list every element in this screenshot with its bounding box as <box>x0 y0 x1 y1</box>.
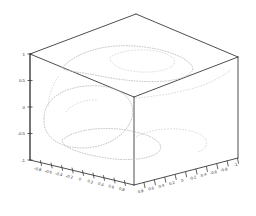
x-tick-label-m0p6: -0.6 <box>44 168 53 175</box>
y-tick-0p6 <box>154 180 155 186</box>
y-tick-0p8 <box>144 182 145 188</box>
contour-bottom-face-ellipse <box>62 128 161 159</box>
z-tick-label-m1: -1 <box>21 158 25 163</box>
y-tick-label-m0p6: -0.6 <box>209 169 218 176</box>
y-tick-0p2 <box>175 174 176 180</box>
y-tick-label-0p6: 0.6 <box>148 185 155 191</box>
y-tick-m0p2 <box>196 169 197 175</box>
y-tick-label-0: 0 <box>180 177 184 183</box>
contour-group-bottom-face <box>62 128 161 159</box>
x-tick-label-0p2: 0.2 <box>87 178 94 184</box>
y-tick-label-m0p8: -0.8 <box>220 166 229 173</box>
x-tick-label-m0p2: -0.2 <box>65 173 74 180</box>
y-tick-label-m1: -1 <box>233 161 238 167</box>
x-tick-label-0: 0 <box>78 176 82 182</box>
box-edge-top-front-right <box>134 57 238 97</box>
y-tick-label-0p2: 0.2 <box>168 180 175 186</box>
contour-group-top-face <box>62 46 193 82</box>
contour-top-face-inner <box>110 50 175 72</box>
y-tick-m0p8 <box>227 161 228 167</box>
contour-right-face-lower <box>136 129 206 140</box>
y-axis: 0.8 0.6 0.4 0.2 0 -0.2 -0.4 -0.6 -0.8 -1 <box>134 158 239 194</box>
plot-canvas: 1 0.5 0 -0.5 -1 -0.8 -0.6 -0.4 -0. <box>0 0 256 216</box>
y-tick-m1 <box>237 158 238 164</box>
x-tick-label-0p6: 0.6 <box>108 183 115 189</box>
x-axis-ticks <box>40 160 125 186</box>
x-tick-label-m0p4: -0.4 <box>55 171 64 178</box>
x-tick-label-0p4: 0.4 <box>97 181 104 187</box>
box-edge-top-back-right <box>136 14 238 57</box>
contour-group-right-face <box>136 70 230 152</box>
z-tick-label-0: 0 <box>23 105 26 110</box>
y-tick-0p4 <box>165 177 166 183</box>
y-tick-label-m0p2: -0.2 <box>189 174 198 181</box>
x-tick-label-m0p8: -0.8 <box>34 166 43 173</box>
contour-right-face-edge <box>198 140 207 152</box>
y-tick-0 <box>186 172 187 178</box>
box-edge-top-back-left <box>30 14 136 54</box>
y-tick-label-m0p4: -0.4 <box>199 171 208 178</box>
y-tick-m0p6 <box>217 164 218 170</box>
x-axis: -0.8 -0.6 -0.4 -0.2 0 0.2 0.4 0.6 0.8 <box>30 160 134 192</box>
z-axis: 1 0.5 0 -0.5 -1 <box>18 52 33 163</box>
z-tick-label-m0p5: -0.5 <box>18 131 26 136</box>
plot-3d-surface-contour: 1 0.5 0 -0.5 -1 -0.8 -0.6 -0.4 -0. <box>0 0 256 216</box>
contour-left-face-outer <box>44 86 133 148</box>
z-tick-label-1: 1 <box>23 52 26 57</box>
y-tick-label-0p8: 0.8 <box>137 188 144 194</box>
z-tick-label-0p5: 0.5 <box>19 78 26 83</box>
x-tick-label-0p8: 0.8 <box>118 186 125 192</box>
contour-left-face-inner <box>48 77 58 108</box>
contour-right-face-upper <box>136 70 230 98</box>
contour-group-left-face <box>44 77 133 148</box>
y-tick-label-0p4: 0.4 <box>158 182 165 188</box>
contour-top-face-outer <box>62 46 193 82</box>
contour-left-face-arc <box>66 100 98 112</box>
y-tick-m0p4 <box>206 166 207 172</box>
